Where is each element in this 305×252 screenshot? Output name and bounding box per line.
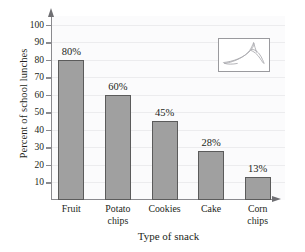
x-axis-category-label: Cornchips — [232, 203, 284, 226]
y-axis-tick — [46, 130, 52, 131]
x-axis-title: Type of snack — [52, 230, 285, 242]
x-axis-category-label: Cake — [185, 203, 237, 215]
y-axis-tick — [46, 95, 52, 96]
y-axis-tick — [46, 42, 52, 43]
x-axis-category-label-line: Potato — [92, 203, 144, 215]
bar-chart-figure: Percent of school lunches 10203040506070… — [0, 0, 305, 252]
y-axis-tick-label: 40 — [2, 125, 44, 135]
y-axis-tick-label: 10 — [2, 177, 44, 187]
y-axis-tick-label: 80 — [2, 55, 44, 65]
x-axis-category-label-line: chips — [92, 215, 144, 227]
bar — [58, 60, 84, 200]
y-axis-tick-label: 70 — [2, 72, 44, 82]
y-axis-tick — [46, 182, 52, 183]
y-axis-tick — [46, 165, 52, 166]
bar — [152, 121, 178, 200]
bar-value-label: 28% — [187, 137, 235, 148]
bar — [198, 151, 224, 200]
y-axis-tick — [46, 60, 52, 61]
x-axis-category-label: Potatochips — [92, 203, 144, 226]
x-axis-category-label: Fruit — [45, 203, 97, 215]
x-axis-category-labels: FruitPotatochipsCookiesCakeCornchips — [52, 203, 285, 233]
y-axis-tick — [46, 25, 52, 26]
bar-value-label: 60% — [94, 81, 142, 92]
y-axis-tick — [46, 112, 52, 113]
x-axis-category-label-line: Cake — [185, 203, 237, 215]
bar — [105, 95, 131, 200]
bar-value-label: 80% — [47, 46, 95, 57]
x-axis-category-label: Cookies — [139, 203, 191, 215]
y-axis-tick-label: 30 — [2, 142, 44, 152]
y-axis-tick-label: 20 — [2, 160, 44, 170]
x-axis-category-label-line: chips — [232, 215, 284, 227]
y-axis-tick — [46, 147, 52, 148]
y-axis-tick-label: 60 — [2, 90, 44, 100]
y-axis-tick-label: 100 — [2, 20, 44, 30]
banana-line-drawing-icon — [218, 38, 270, 72]
y-axis-tick-label: 50 — [2, 107, 44, 117]
bar-value-label: 45% — [141, 107, 189, 118]
y-axis-tick-label: 90 — [2, 37, 44, 47]
bar — [245, 177, 271, 200]
x-axis-category-label-line: Cookies — [139, 203, 191, 215]
x-axis-category-label-line: Corn — [232, 203, 284, 215]
bar-value-label: 13% — [234, 163, 282, 174]
y-axis-tick — [46, 77, 52, 78]
y-axis-tick-labels: 102030405060708090100 — [0, 0, 44, 252]
x-axis-category-label-line: Fruit — [45, 203, 97, 215]
